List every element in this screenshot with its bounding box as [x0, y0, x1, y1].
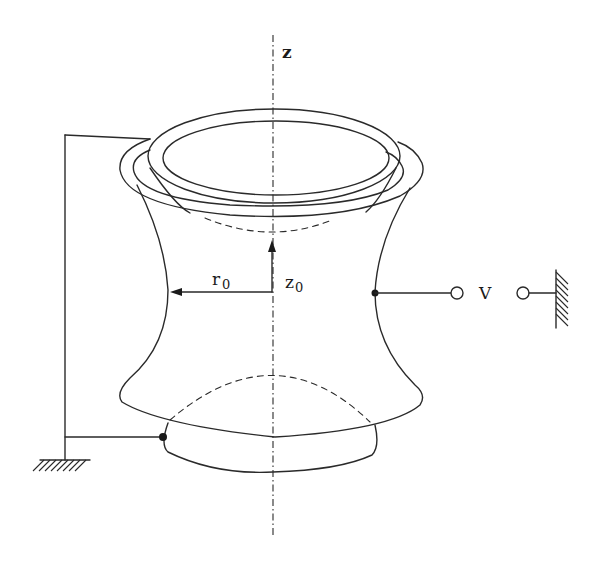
svg-text:r: r — [212, 269, 221, 289]
radius-arrow-r0: r 0 — [170, 269, 272, 296]
voltage-source-V: V — [372, 283, 557, 303]
endcap-connection-wire — [65, 135, 167, 460]
lower-endcap-electrode — [164, 375, 377, 472]
ground-symbol-right — [556, 270, 568, 328]
svg-text:V: V — [478, 283, 492, 303]
svg-text:z: z — [285, 272, 294, 292]
svg-text:0: 0 — [222, 277, 230, 292]
ion-trap-diagram: z z 0 r 0 V — [0, 0, 602, 561]
z-axis-label: z — [282, 42, 292, 62]
ground-symbol-left — [33, 460, 90, 471]
svg-text:0: 0 — [295, 280, 303, 295]
